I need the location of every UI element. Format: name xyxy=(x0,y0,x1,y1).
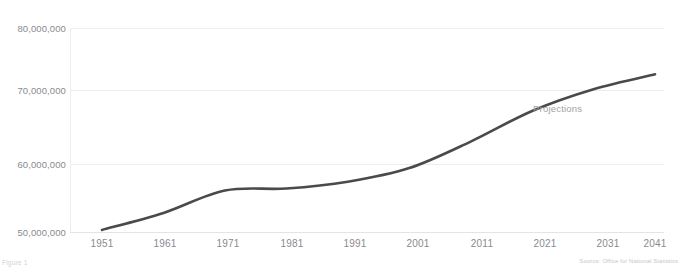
y-axis-tick-label: 80,000,000 xyxy=(2,23,66,34)
x-axis-tick-label: 2021 xyxy=(533,238,556,249)
x-axis-tick-labels: 1951 1961 1971 1981 1991 2001 2011 2021 … xyxy=(70,238,664,254)
x-axis-baseline xyxy=(70,232,664,233)
population-line-chart: 80,000,000 70,000,000 60,000,000 50,000,… xyxy=(0,0,682,277)
x-axis-tick-label: 2031 xyxy=(596,238,619,249)
x-axis-tick-label: 1981 xyxy=(280,238,303,249)
x-axis-tick-label: 1961 xyxy=(153,238,176,249)
projections-annotation: Projections xyxy=(533,103,582,114)
x-axis-tick-label: 1991 xyxy=(343,238,366,249)
series-path xyxy=(102,74,655,230)
plot-area xyxy=(70,28,664,232)
y-axis-tick-label: 60,000,000 xyxy=(2,159,66,170)
source-note: Source: Office for National Statistics xyxy=(580,258,678,264)
x-axis-tick-label: 2011 xyxy=(471,238,493,249)
x-axis-tick-label: 1971 xyxy=(216,238,239,249)
x-axis-tick-label: 1951 xyxy=(90,238,113,249)
y-axis-tick-labels: 80,000,000 70,000,000 60,000,000 50,000,… xyxy=(0,0,66,277)
x-axis-tick-label: 2001 xyxy=(406,238,429,249)
x-axis-tick-label: 2041 xyxy=(643,238,666,249)
figure-caption: Figure 1 xyxy=(2,259,27,266)
y-axis-tick-label: 50,000,000 xyxy=(2,227,66,238)
y-axis-tick-label: 70,000,000 xyxy=(2,85,66,96)
population-series-line xyxy=(70,28,664,232)
